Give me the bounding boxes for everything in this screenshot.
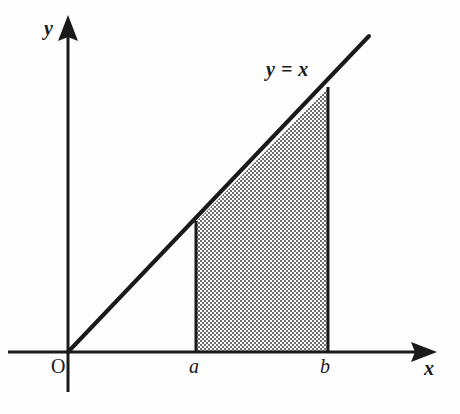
x-tick-label-a: a <box>189 356 199 376</box>
curve-equation-label: y = x <box>266 59 309 79</box>
coordinate-plot <box>0 0 460 414</box>
x-tick-label-b: b <box>320 356 330 376</box>
shaded-area-region <box>196 88 328 352</box>
y-axis-label: y <box>44 18 53 38</box>
origin-label: O <box>51 356 65 376</box>
x-axis-label: x <box>424 358 434 378</box>
figure-container: y x O a b y = x <box>0 0 460 414</box>
